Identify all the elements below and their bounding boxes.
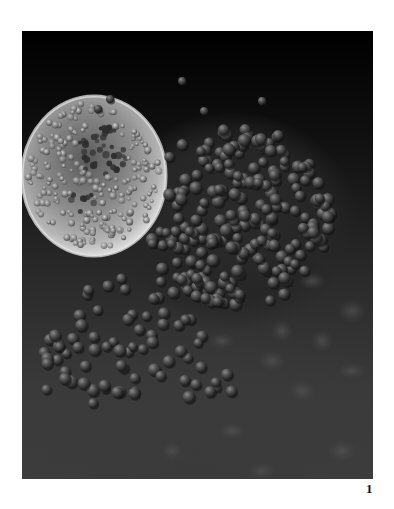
spherical-body	[41, 385, 51, 395]
spherical-body	[112, 386, 124, 398]
granule	[97, 187, 103, 193]
spherical-body	[255, 133, 267, 145]
granule	[77, 101, 84, 108]
spherical-body	[300, 213, 310, 223]
blurred-particle	[327, 440, 357, 462]
spherical-body	[142, 311, 152, 321]
granule	[81, 170, 86, 175]
spherical-body	[158, 307, 170, 319]
spherical-body	[290, 206, 300, 216]
granule	[82, 154, 88, 160]
spherical-body	[194, 338, 203, 347]
spherical-body	[196, 146, 205, 155]
spherical-body	[200, 293, 210, 303]
spherical-body	[78, 377, 90, 389]
spherical-body	[185, 255, 197, 267]
granule	[67, 113, 74, 120]
granule	[74, 131, 78, 135]
granule	[144, 146, 151, 153]
granule	[83, 216, 90, 223]
granule	[100, 134, 107, 141]
granule	[38, 211, 44, 217]
granule	[127, 209, 134, 216]
granule	[90, 150, 96, 156]
granule	[110, 228, 116, 234]
spherical-body	[239, 209, 251, 221]
spherical-body	[223, 143, 235, 155]
spherical-body	[192, 170, 202, 180]
granule	[69, 212, 74, 217]
granule	[62, 164, 66, 168]
granule	[110, 164, 116, 170]
spherical-body	[180, 314, 190, 324]
spherical-body	[88, 398, 98, 408]
spherical-body	[191, 290, 202, 301]
granule	[101, 242, 108, 249]
granule	[147, 192, 152, 197]
spherical-body	[191, 273, 202, 284]
granule	[88, 107, 95, 114]
spherical-body	[258, 157, 267, 166]
granule	[155, 160, 161, 166]
granule	[109, 192, 117, 200]
granule	[121, 147, 127, 153]
granule	[73, 177, 80, 184]
spherical-body	[225, 284, 234, 293]
spherical-body	[80, 360, 91, 371]
spherical-body	[167, 239, 176, 248]
granule	[118, 212, 124, 218]
spherical-body	[49, 330, 61, 342]
spherical-body	[276, 145, 287, 156]
granule	[80, 128, 85, 133]
granule	[130, 144, 135, 149]
spherical-body	[267, 228, 277, 238]
spherical-body	[220, 224, 232, 236]
spherical-body	[157, 318, 168, 329]
spherical-body	[176, 274, 186, 284]
granule	[90, 214, 94, 218]
spherical-body	[183, 391, 195, 403]
spherical-body	[270, 194, 281, 205]
spherical-body	[268, 240, 279, 251]
spherical-body	[280, 157, 289, 166]
granule	[36, 133, 43, 140]
granule	[83, 140, 88, 145]
spherical-body	[235, 289, 245, 299]
granule	[93, 178, 100, 185]
spherical-body	[134, 324, 145, 335]
spherical-body	[253, 178, 262, 187]
spherical-body	[322, 211, 334, 223]
spherical-body	[295, 191, 305, 201]
spherical-body	[189, 181, 201, 193]
spherical-body	[116, 274, 126, 284]
granule	[120, 124, 125, 129]
spherical-body	[156, 262, 168, 274]
spherical-body	[268, 277, 279, 288]
spherical-body	[229, 188, 241, 200]
granule	[104, 174, 111, 181]
granule	[99, 221, 104, 226]
spherical-body	[278, 288, 289, 299]
granule	[131, 159, 137, 165]
granule	[150, 199, 154, 203]
granule	[54, 192, 58, 196]
granule	[127, 156, 131, 160]
spherical-body	[211, 377, 221, 387]
granule	[154, 189, 158, 193]
granule	[93, 195, 97, 199]
granule	[56, 200, 60, 204]
granule	[112, 123, 119, 130]
spherical-body	[226, 386, 237, 397]
spherical-body	[156, 371, 166, 381]
granule	[113, 185, 118, 190]
granule	[59, 176, 64, 181]
granule	[54, 196, 58, 200]
granule	[68, 126, 74, 132]
blurred-particle	[248, 462, 277, 479]
granule	[68, 154, 74, 160]
spherical-body	[175, 345, 187, 357]
spherical-body	[300, 175, 310, 185]
figure-number-label: 1	[366, 481, 373, 497]
granule	[155, 167, 162, 174]
blurred-particle	[337, 363, 367, 379]
